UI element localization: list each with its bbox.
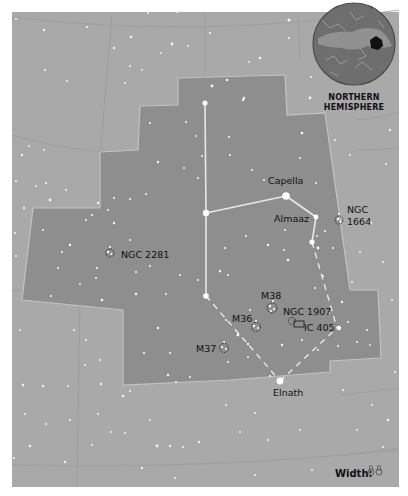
label-m38: M38 — [261, 290, 281, 301]
width-label: Width: — [335, 468, 373, 479]
label-elnath: Elnath — [273, 387, 303, 398]
star-bright-4 — [337, 326, 341, 330]
label-ngc-2281: NGC 2281 — [121, 249, 169, 260]
label-ngc-1664-line1: NGC — [347, 204, 368, 215]
label-ngc-1664-line2: 1664 — [347, 216, 371, 227]
star-capella — [282, 192, 290, 200]
label-m37: M37 — [196, 343, 216, 354]
label-almaaz: Almaaz — [274, 213, 309, 224]
label-capella: Capella — [268, 175, 303, 186]
star-almaaz — [314, 215, 319, 220]
star-bright-2 — [203, 293, 209, 299]
label-ic-405: IC 405 — [304, 322, 335, 333]
star-bright-3 — [309, 239, 314, 244]
star-chart: Capella Almaaz Elnath NGC 1664 NGC 2281 … — [0, 0, 408, 496]
star-bright-1 — [203, 210, 209, 216]
inset-label-line1: NORTHERN — [328, 93, 379, 102]
label-ngc-1907: NGC 1907 — [283, 306, 331, 317]
star-elnath — [277, 378, 284, 385]
label-m36: M36 — [232, 313, 252, 324]
inset-label-line2: HEMISPHERE — [324, 103, 385, 112]
